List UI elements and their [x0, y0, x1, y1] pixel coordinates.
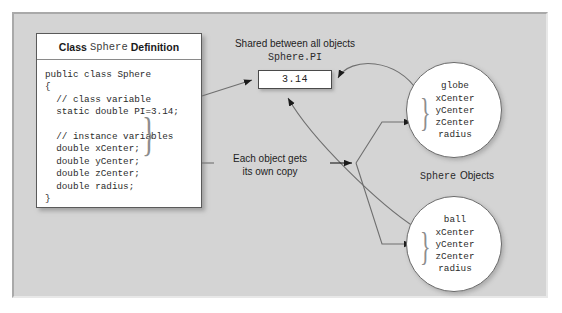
- diagram-canvas: Class Sphere Definition public class Sph…: [0, 0, 562, 313]
- object-instance-ball: ball xCenter yCenter zCenter radius }: [406, 196, 502, 292]
- object-name-globe: globe: [441, 80, 469, 92]
- shared-variable-name: Sphere.PI: [222, 52, 368, 63]
- class-header-classname: Sphere: [87, 41, 131, 53]
- sphere-objects-label: SphereObjects: [420, 165, 494, 183]
- wire-junction-to-globe: [356, 122, 412, 163]
- shared-variable-label: Shared between all objects: [222, 38, 368, 49]
- own-copy-note-line1: Each object gets: [233, 153, 307, 164]
- sphere-objects-suffix: Objects: [456, 170, 494, 181]
- class-source-code: public class Sphere { // class variable …: [37, 60, 201, 205]
- object-fields-globe: xCenter yCenter zCenter radius: [435, 93, 474, 142]
- own-copy-note-line2: its own copy: [242, 166, 297, 177]
- object-fields-brace-ball: }: [420, 227, 431, 267]
- own-copy-note: Each object gets its own copy: [205, 152, 335, 178]
- object-fields-ball: xCenter yCenter zCenter radius: [435, 227, 474, 276]
- class-header-suffix: Definition: [131, 41, 179, 53]
- class-definition-box: Class Sphere Definition public class Sph…: [36, 33, 202, 208]
- instance-variables-brace: }: [142, 112, 156, 158]
- object-name-ball: ball: [444, 214, 466, 226]
- object-fields-brace-globe: }: [420, 93, 431, 133]
- object-instance-globe: globe xCenter yCenter zCenter radius }: [406, 62, 502, 158]
- sphere-objects-classname: Sphere: [420, 171, 456, 182]
- class-header-prefix: Class: [59, 41, 87, 53]
- class-definition-header: Class Sphere Definition: [37, 34, 201, 60]
- wire-globe-to-pi: [338, 64, 418, 92]
- shared-variable-value: 3.14: [282, 74, 308, 85]
- shared-variable-value-box: 3.14: [258, 70, 332, 89]
